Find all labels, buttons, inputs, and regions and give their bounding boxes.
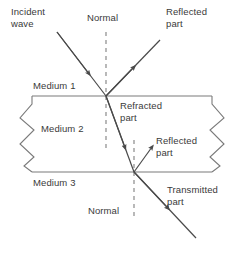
label-normal-top: Normal [87,12,118,24]
label-incident-wave: Incident wave [11,6,45,29]
label-transmitted-part: Transmitted part [167,184,218,207]
reflected-ray-bottom [134,147,152,172]
label-medium-2: Medium 2 [41,123,84,135]
label-medium-1: Medium 1 [33,80,76,92]
slab-left-torn-edge [20,96,34,172]
label-refracted-part: Refracted part [120,100,162,123]
reflected-ray-top [106,40,160,96]
label-normal-bottom: Normal [88,205,119,217]
label-medium-3: Medium 3 [33,177,76,189]
optics-ray-diagram: Incident wave Normal Reflected part Medi… [0,0,244,254]
label-reflected-top: Reflected part [166,6,207,29]
slab-right-torn-edge [210,96,224,172]
label-reflected-bottom: Reflected part [156,135,197,158]
diagram-canvas [0,0,244,254]
